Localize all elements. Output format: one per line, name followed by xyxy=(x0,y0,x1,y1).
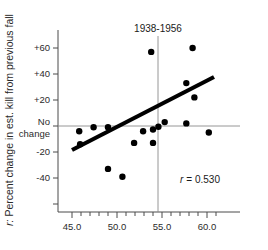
data-point xyxy=(162,119,168,125)
y-tick-label-minus40: -40 xyxy=(36,172,50,183)
chart-canvas: r: Percent change in est. kill from prev… xyxy=(0,0,268,250)
x-axis-tick-labels: 45.0 50.0 55.0 60.0 xyxy=(63,221,217,232)
data-point xyxy=(131,140,137,146)
data-point xyxy=(191,94,197,100)
correlation-value: = 0.530 xyxy=(186,174,220,185)
y-tick-label-zero-line2: change xyxy=(19,128,50,139)
x-tick-label-45: 45.0 xyxy=(63,221,82,232)
data-point xyxy=(206,129,212,135)
x-tick-label-60: 60.0 xyxy=(198,221,217,232)
y-tick-label-20: +20 xyxy=(34,94,50,105)
y-axis-title-rest: Percent change in est. kill from previou… xyxy=(3,14,15,219)
correlation-annotation: r= 0.530 xyxy=(180,174,220,185)
data-point xyxy=(119,174,125,180)
data-point xyxy=(90,124,96,130)
correlation-annotation-group: r= 0.530 xyxy=(180,174,220,185)
data-point xyxy=(140,128,146,134)
scatter-plot-figure: r: Percent change in est. kill from prev… xyxy=(0,0,268,250)
data-point xyxy=(105,124,111,130)
data-point xyxy=(189,45,195,51)
y-tick-label-40: +40 xyxy=(34,68,50,79)
x-axis-ticks xyxy=(72,212,216,218)
data-point xyxy=(76,128,82,134)
data-point xyxy=(148,49,154,55)
y-axis-title: r: Percent change in est. kill from prev… xyxy=(3,14,15,226)
era-annotation-group: 1938-1956 xyxy=(134,23,182,34)
x-tick-label-50: 50.0 xyxy=(108,221,127,232)
correlation-symbol: r xyxy=(180,174,184,185)
y-axis-ticks xyxy=(53,48,58,204)
era-annotation-label: 1938-1956 xyxy=(134,23,182,34)
y-axis-title-group: r: Percent change in est. kill from prev… xyxy=(3,14,15,226)
trend-line-group xyxy=(72,77,214,150)
regression-trend-line xyxy=(72,77,214,150)
y-tick-label-zero-line1: No xyxy=(38,116,50,127)
reference-lines xyxy=(58,36,240,212)
data-point xyxy=(183,80,189,86)
data-point xyxy=(155,124,161,130)
data-point xyxy=(105,166,111,172)
x-tick-label-55: 55.0 xyxy=(153,221,172,232)
y-axis-tick-labels: +60 +40 +20 No change -20 -40 xyxy=(19,42,50,183)
data-point xyxy=(150,140,156,146)
y-tick-label-60: +60 xyxy=(34,42,50,53)
data-point xyxy=(77,141,83,147)
y-tick-label-minus20: -20 xyxy=(36,146,50,157)
data-point xyxy=(183,120,189,126)
